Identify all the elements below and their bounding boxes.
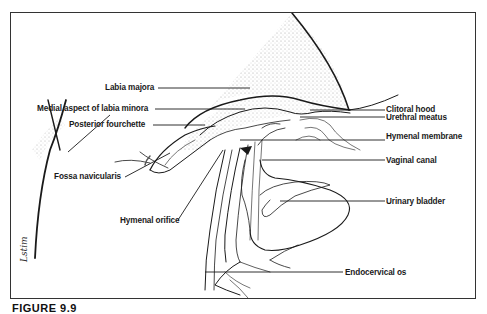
label-hymenal-orifice: Hymenal orifice	[120, 217, 179, 225]
label-posterior-fourchette: Posterior fourchette	[69, 121, 145, 129]
label-hymenal-membrane: Hymenal membrane	[386, 133, 462, 141]
label-vaginal-canal: Vaginal canal	[386, 157, 437, 165]
figure-caption: FIGURE 9.9	[12, 302, 77, 314]
artist-signature: Lstim	[19, 236, 29, 263]
label-labia-majora: Labia majora	[105, 84, 154, 92]
label-endocervical-os: Endocervical os	[345, 269, 406, 277]
label-urethral-meatus: Urethral meatus	[386, 114, 447, 122]
label-urinary-bladder: Urinary bladder	[386, 198, 445, 206]
label-medial-aspect-labia-minora: Medial aspect of labia minora	[37, 105, 148, 113]
label-fossa-navicularis: Fossa navicularis	[54, 173, 121, 181]
